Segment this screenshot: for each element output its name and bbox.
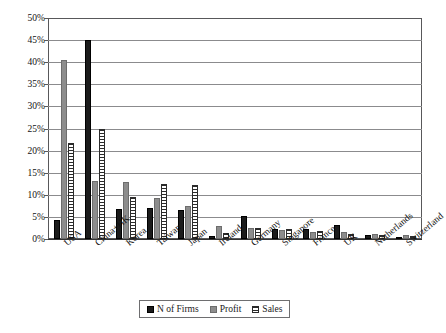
bar-group: [297, 18, 328, 239]
bar-group: [235, 18, 266, 239]
bar: [85, 40, 91, 239]
bar: [61, 60, 67, 239]
bar-group: [173, 18, 204, 239]
bar: [99, 129, 105, 240]
bar: [68, 143, 74, 239]
legend-item[interactable]: Sales: [252, 303, 282, 315]
y-axis-tick-label: 10%: [28, 190, 45, 200]
chart-legend: N of FirmsProfitSales: [139, 300, 290, 318]
bar-group: [79, 18, 110, 239]
legend-label: Sales: [262, 303, 282, 315]
bar-group: [266, 18, 297, 239]
legend-item[interactable]: Profit: [210, 303, 242, 315]
legend-swatch-icon: [210, 306, 217, 313]
bars-layer: [48, 18, 422, 239]
y-axis-tick-label: 15%: [28, 168, 45, 178]
bar-group: [204, 18, 235, 239]
bar: [147, 208, 153, 239]
legend-label: Profit: [220, 303, 242, 315]
legend-label: N of Firms: [157, 303, 199, 315]
bar: [185, 206, 191, 239]
y-axis-tick-label: 20%: [28, 146, 45, 156]
y-axis-tick-label: 25%: [28, 124, 45, 134]
legend-item[interactable]: N of Firms: [147, 303, 199, 315]
bar-group: [329, 18, 360, 239]
y-axis-tick-label: 45%: [28, 35, 45, 45]
y-axis-tick-label: 40%: [28, 57, 45, 67]
x-axis-labels: USAChina+HKKoreaTaiwanJapanIrelandGerman…: [48, 240, 422, 300]
bar: [123, 182, 129, 239]
bar-group: [360, 18, 391, 239]
y-axis-tick-label: 50%: [28, 13, 45, 23]
bar: [92, 181, 98, 239]
bar: [54, 220, 60, 239]
bar-group: [142, 18, 173, 239]
y-axis-tick-label: 30%: [28, 101, 45, 111]
x-axis-line: [48, 239, 422, 240]
bar: [154, 198, 160, 239]
y-axis-tick-label: 35%: [28, 79, 45, 89]
bar-group: [48, 18, 79, 239]
bar-group: [391, 18, 422, 239]
legend-swatch-icon: [147, 306, 154, 313]
bar-group: [110, 18, 141, 239]
legend-swatch-icon: [252, 306, 259, 313]
